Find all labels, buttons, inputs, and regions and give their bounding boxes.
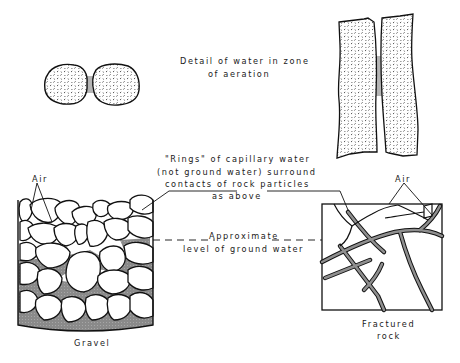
rings-caption-line3: contacts of rock particles bbox=[165, 180, 310, 188]
fractured-rock-section bbox=[322, 204, 442, 310]
rings-caption-line1: "Rings" of capillary water bbox=[165, 155, 311, 163]
fractured-rock-label-line2: rock bbox=[377, 332, 401, 340]
detail-caption-line1: Detail of water in zone bbox=[180, 57, 310, 65]
air-label-fractured: Air bbox=[395, 175, 411, 183]
round-grains-detail bbox=[45, 64, 140, 105]
fracture-block-left bbox=[337, 18, 377, 158]
round-grain-left bbox=[45, 64, 88, 104]
air-label-gravel: Air bbox=[32, 175, 48, 183]
gravel-label: Gravel bbox=[74, 339, 111, 347]
rings-caption-line2: (not ground water) surround bbox=[157, 168, 317, 176]
rings-caption-line4: as above bbox=[212, 192, 262, 200]
detail-caption-line2: of aeration bbox=[208, 70, 270, 78]
groundwater-caption-line2: level of ground water bbox=[183, 245, 304, 253]
groundwater-caption-line1: Approximate bbox=[209, 232, 279, 240]
gravel-section bbox=[18, 195, 153, 331]
round-grain-right bbox=[93, 64, 139, 105]
fractured-rock-label-line1: Fractured bbox=[362, 320, 415, 328]
fracture-block-right bbox=[381, 14, 418, 156]
fracture-blocks-detail bbox=[337, 14, 418, 158]
